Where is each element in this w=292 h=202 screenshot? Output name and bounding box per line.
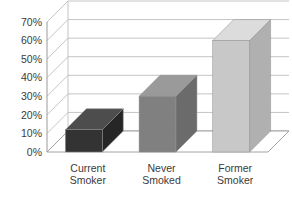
- y-tick-label: 40%: [21, 71, 42, 83]
- category-label: Smoker: [217, 174, 254, 186]
- bar-front-face: [213, 41, 250, 152]
- y-tick-label: 30%: [21, 90, 42, 102]
- y-axis-tick-labels: 70%60%50%40%30%20%10%0%: [21, 16, 42, 158]
- axis-lines: [47, 1, 68, 152]
- bar-chart-3d: 70%60%50%40%30%20%10%0% CurrentSmokerNev…: [0, 0, 292, 202]
- gridline-depth: [47, 20, 68, 41]
- bar-2: [213, 20, 271, 152]
- category-label: Never: [147, 162, 176, 174]
- gridline-depth: [47, 75, 68, 96]
- y-tick-label: 50%: [21, 53, 42, 65]
- category-label: Former: [218, 162, 252, 174]
- category-label: Smoker: [70, 174, 107, 186]
- bar-side-face: [250, 20, 271, 152]
- y-tick-label: 20%: [21, 109, 42, 121]
- gridline-depth: [47, 38, 68, 59]
- category-label: Smoked: [142, 174, 181, 186]
- x-axis-category-labels: CurrentSmokerNeverSmokedFormerSmoker: [70, 162, 254, 186]
- y-tick-label: 10%: [21, 127, 42, 139]
- gridline-depth: [47, 1, 68, 22]
- gridline-depth: [47, 94, 68, 115]
- gridline-depth: [47, 112, 68, 133]
- gridline-depth: [47, 57, 68, 78]
- chart-container: 70%60%50%40%30%20%10%0% CurrentSmokerNev…: [0, 0, 292, 202]
- bar-front-face: [65, 130, 102, 152]
- category-label: Current: [70, 162, 105, 174]
- y-tick-label: 0%: [27, 146, 42, 158]
- y-tick-label: 70%: [21, 16, 42, 28]
- y-tick-label: 60%: [21, 34, 42, 46]
- bar-front-face: [139, 96, 176, 152]
